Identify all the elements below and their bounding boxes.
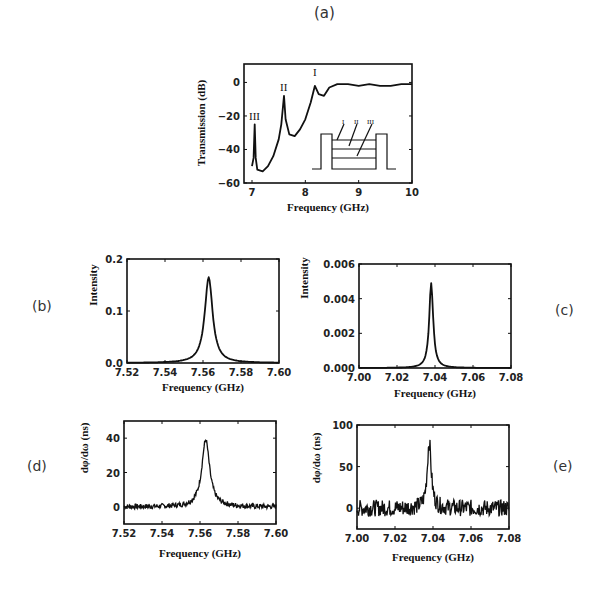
group-delay-curve-e — [357, 440, 509, 517]
tick-label: 0.2 — [105, 254, 123, 265]
y-axis-title-d: dφ/dω (ns) — [78, 422, 91, 473]
tick-label: 9 — [355, 187, 362, 198]
tick-label: −40 — [218, 144, 240, 155]
tick-label: 50 — [339, 462, 353, 473]
plot-frame-c — [359, 264, 511, 368]
group-delay-curve-d — [124, 440, 276, 509]
tick-label: 7.52 — [112, 528, 137, 539]
tick-label: 7.54 — [153, 367, 178, 378]
tick-label: 7.06 — [461, 372, 486, 383]
tick-label: 0.002 — [323, 328, 355, 339]
figure-canvas: 789100−20−40−60 Frequency (GHz) Transmis… — [0, 0, 610, 591]
annotation-III: III — [249, 110, 260, 122]
x-axis-title-e: Frequency (GHz) — [392, 551, 474, 564]
y-axis-title-b: Intensity — [87, 264, 99, 306]
tick-label: 7.56 — [188, 528, 213, 539]
inset-label-II: II — [354, 118, 359, 126]
tick-label: 0 — [113, 502, 120, 513]
tick-label: 7.54 — [150, 528, 175, 539]
intensity-curve-c — [359, 283, 511, 368]
chart-a: 789100−20−40−60 Frequency (GHz) Transmis… — [195, 64, 419, 214]
chart-e: 7.007.027.047.067.08050100 Frequency (GH… — [310, 420, 521, 564]
tick-label: 7 — [249, 187, 256, 198]
tick-label: 10 — [405, 187, 419, 198]
inset-schematic — [312, 124, 396, 169]
tick-label: 7.58 — [226, 528, 251, 539]
tick-label: 0 — [233, 77, 240, 88]
tick-label: 40 — [106, 433, 120, 444]
tick-label: 7.60 — [264, 528, 289, 539]
y-axis-title-e: dφ/dω (ns) — [310, 432, 323, 483]
tick-label: 7.56 — [191, 367, 216, 378]
x-axis-title-d: Frequency (GHz) — [159, 547, 241, 560]
tick-label: 7.08 — [499, 372, 524, 383]
y-axis-title-c: Intensity — [298, 257, 310, 299]
x-axis-title-c: Frequency (GHz) — [394, 387, 476, 400]
plot-frame-d — [124, 421, 276, 524]
tick-label: 7.60 — [267, 367, 292, 378]
tick-label: 20 — [106, 468, 120, 479]
x-axis-title-b: Frequency (GHz) — [162, 381, 244, 394]
chart-b: 7.527.547.567.587.600.00.10.2 Frequency … — [87, 254, 291, 394]
tick-label: 0.1 — [105, 306, 123, 317]
tick-label: 7.58 — [229, 367, 254, 378]
tick-label: 0 — [346, 503, 353, 514]
tick-label: 7.02 — [385, 372, 410, 383]
tick-label: 7.04 — [423, 372, 448, 383]
tick-label: 7.04 — [421, 533, 446, 544]
intensity-curve-b — [127, 277, 279, 363]
annotation-II: II — [280, 81, 288, 93]
ticks-c: 7.007.027.047.067.080.0000.0020.0040.006 — [323, 259, 523, 383]
tick-label: 0.006 — [323, 259, 355, 270]
tick-label: 0.004 — [323, 294, 355, 305]
tick-label: 7.08 — [497, 533, 522, 544]
chart-d: 7.527.547.567.587.6002040 Frequency (GHz… — [78, 421, 288, 560]
tick-label: −20 — [218, 111, 240, 122]
x-axis-title-a: Frequency (GHz) — [287, 201, 369, 214]
plot-frame-b — [127, 259, 279, 363]
annotation-I: I — [313, 66, 317, 78]
tick-label: 7.00 — [345, 533, 370, 544]
ticks-b: 7.527.547.567.587.600.00.10.2 — [105, 254, 291, 378]
y-axis-title-a: Transmission (dB) — [195, 80, 208, 167]
inset-label-I: I — [342, 118, 345, 126]
ticks-d: 7.527.547.567.587.6002040 — [106, 421, 288, 539]
tick-label: 100 — [332, 420, 353, 431]
tick-label: −60 — [218, 178, 240, 189]
chart-c: 7.007.027.047.067.080.0000.0020.0040.006… — [298, 257, 523, 400]
tick-label: 0.0 — [105, 358, 123, 369]
ticks-a: 789100−20−40−60 — [218, 77, 419, 198]
inset-label-III: III — [367, 118, 375, 126]
tick-label: 7.06 — [459, 533, 484, 544]
tick-label: 0.000 — [323, 363, 355, 374]
tick-label: 8 — [302, 187, 309, 198]
tick-label: 7.02 — [383, 533, 408, 544]
